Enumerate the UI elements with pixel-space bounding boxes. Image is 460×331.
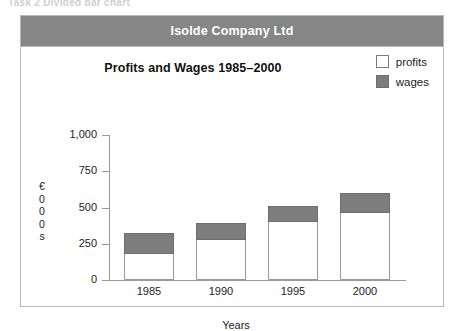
bar-group-1995[interactable]: [268, 206, 318, 280]
y-tick-0: 0: [102, 280, 110, 281]
y-tick-500: 500: [102, 208, 110, 209]
legend-label-wages: wages: [396, 76, 429, 88]
bar-segment-profits-1985[interactable]: [124, 254, 174, 280]
chart-axes: 02505007501,000 1985199019952000: [66, 135, 406, 295]
chart-figure: Isolde Company Ltd Profits and Wages 198…: [20, 15, 444, 307]
x-tick-label-1995: 1995: [258, 285, 328, 297]
x-tick-label-1985: 1985: [114, 285, 184, 297]
y-tick-label: 750: [79, 164, 97, 176]
x-axis-title: Years: [66, 319, 406, 331]
y-tick-250: 250: [102, 244, 110, 245]
x-axis-line: [109, 280, 406, 281]
bar-segment-wages-2000[interactable]: [340, 193, 390, 213]
top-caption: Task 2 Divided bar chart: [8, 0, 308, 7]
y-tick-mark: [102, 135, 110, 136]
company-name: Isolde Company Ltd: [170, 24, 293, 38]
y-tick-label: 500: [79, 201, 97, 213]
bar-segment-profits-2000[interactable]: [340, 213, 390, 280]
y-tick-label: 1,000: [69, 128, 97, 140]
y-unit-char-2: 0: [35, 205, 49, 218]
y-unit-char-1: 0: [35, 193, 49, 206]
legend-swatch-wages-icon: [376, 75, 389, 88]
y-unit-char-3: 0: [35, 218, 49, 231]
bar-group-1990[interactable]: [196, 223, 246, 280]
y-tick-label: 0: [91, 273, 97, 285]
x-tick-label-1990: 1990: [186, 285, 256, 297]
chart-legend: profits wages: [376, 55, 429, 95]
bar-segment-wages-1995[interactable]: [268, 206, 318, 222]
y-unit-char-4: s: [35, 230, 49, 243]
y-tick-mark: [102, 280, 110, 281]
bar-segment-profits-1990[interactable]: [196, 240, 246, 280]
bar-segment-profits-1995[interactable]: [268, 222, 318, 280]
legend-label-profits: profits: [396, 56, 427, 68]
bar-group-1985[interactable]: [124, 233, 174, 280]
y-unit-char-0: €: [35, 180, 49, 193]
legend-swatch-profits-icon: [376, 55, 389, 68]
company-banner: Isolde Company Ltd: [21, 16, 443, 47]
y-tick-label: 250: [79, 237, 97, 249]
legend-item-wages[interactable]: wages: [376, 75, 429, 88]
legend-item-profits[interactable]: profits: [376, 55, 429, 68]
y-tick-1000: 1,000: [102, 135, 110, 136]
plot-area: Profits and Wages 1985–2000 profits wage…: [21, 47, 443, 307]
bar-group-2000[interactable]: [340, 193, 390, 280]
y-tick-mark: [102, 244, 110, 245]
y-axis-unit-label: € 0 0 0 s: [35, 180, 49, 243]
bar-segment-wages-1985[interactable]: [124, 233, 174, 254]
bar-segment-wages-1990[interactable]: [196, 223, 246, 240]
x-tick-label-2000: 2000: [330, 285, 400, 297]
y-tick-mark: [102, 171, 110, 172]
y-tick-mark: [102, 208, 110, 209]
y-tick-750: 750: [102, 171, 110, 172]
